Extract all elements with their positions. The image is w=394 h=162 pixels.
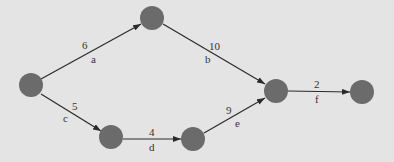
edge-f-weight: 2 <box>314 78 320 90</box>
edge-b <box>163 24 265 84</box>
edge-e-weight: 9 <box>226 104 232 116</box>
network-diagram: 6 a 10 b 5 c 4 d 9 e 2 f <box>0 0 394 162</box>
edge-d-weight: 4 <box>149 126 155 138</box>
node-5 <box>264 79 288 103</box>
node-6 <box>350 80 374 104</box>
edge-f <box>288 91 350 92</box>
node-2 <box>140 6 164 30</box>
edge-a-weight: 6 <box>82 39 88 51</box>
node-3 <box>99 125 123 149</box>
edge-c-weight: 5 <box>72 100 78 112</box>
edge-b-weight: 10 <box>209 40 221 52</box>
node-1 <box>19 73 43 97</box>
edge-f-label: f <box>315 93 319 105</box>
edge-c <box>41 94 101 131</box>
edge-a <box>41 24 141 79</box>
node-4 <box>181 127 205 151</box>
edge-e-label: e <box>235 117 240 129</box>
edge-c-label: c <box>63 112 68 124</box>
edge-a-label: a <box>91 53 96 65</box>
edge-d-label: d <box>149 141 155 153</box>
edge-b-label: b <box>205 53 211 65</box>
